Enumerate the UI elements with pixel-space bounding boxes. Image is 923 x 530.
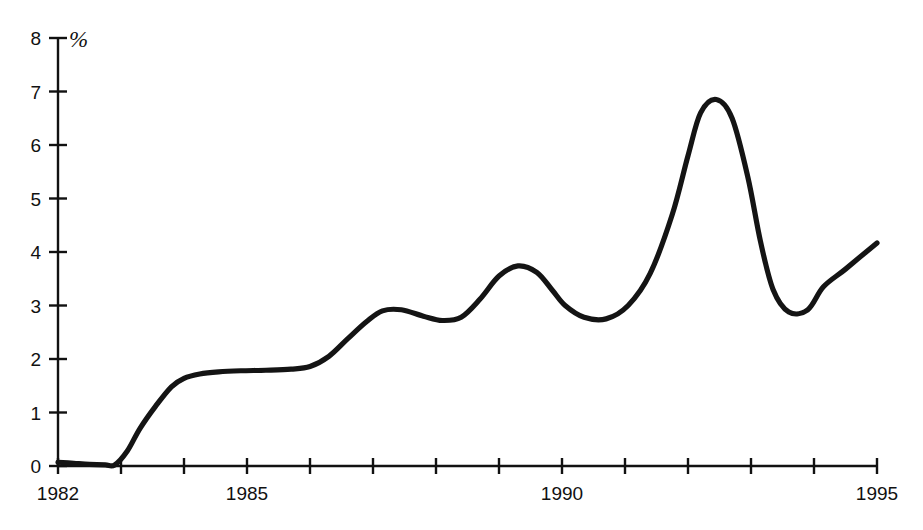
x-axis-tick-label: 1995 (856, 483, 898, 504)
y-axis-tick-label: 5 (30, 189, 41, 210)
y-axis-tick-label: 3 (30, 296, 41, 317)
y-axis-tick-label: 0 (30, 456, 41, 477)
y-axis-unit-label: % (69, 27, 88, 52)
x-axis-tick-label: 1990 (541, 483, 583, 504)
x-axis-tick-label: 1982 (37, 483, 79, 504)
y-axis-tick-label: 8 (30, 28, 41, 49)
data-series-group (58, 99, 877, 466)
y-axis-tick-label: 6 (30, 135, 41, 156)
line-chart: 012345678 1982198519901995 % (0, 0, 923, 530)
y-axis-tick-label: 4 (30, 242, 41, 263)
chart-container: 012345678 1982198519901995 % (0, 0, 923, 530)
x-axis-tick-label: 1985 (226, 483, 268, 504)
y-axis: 012345678 (30, 28, 67, 477)
y-axis-tick-label: 1 (30, 403, 41, 424)
y-axis-tick-label: 2 (30, 349, 41, 370)
data-series-line (58, 99, 877, 466)
x-axis: 1982198519901995 (37, 458, 898, 504)
y-axis-tick-label: 7 (30, 82, 41, 103)
